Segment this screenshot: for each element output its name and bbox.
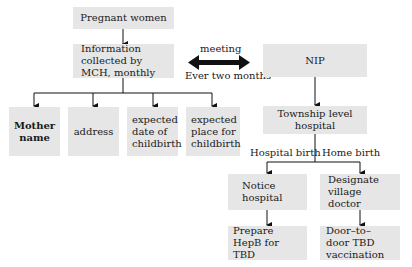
designate-village-doctor-box: Designate village doctor [320, 174, 400, 210]
township-hospital-box: Township level hospital [263, 106, 367, 134]
every-two-months-label: Ever two months [185, 70, 271, 82]
nip-box: NIP [263, 44, 367, 77]
hospital-birth-label: Hospital birth [250, 147, 321, 159]
information-collected-box: Information collected by MCH, monthly [73, 44, 174, 78]
pregnant-women-box: Pregnant women [73, 7, 174, 29]
meeting-label: meeting [200, 43, 241, 55]
home-birth-label: Home birth [322, 147, 380, 159]
field-expected-date: expected date of childbirth [127, 107, 178, 156]
notice-hospital-box: Notice hospital [228, 174, 307, 210]
field-address: address [68, 107, 119, 156]
information-collected-label: Information collected by MCH, monthly [81, 43, 168, 79]
prepare-hepb-box: Prepare HepB for TBD [228, 226, 307, 260]
double-arrow-icon [188, 55, 250, 70]
door-to-door-vaccination-box: Door–to–door TBD vaccination [320, 226, 400, 260]
field-mother-name: Mother name [9, 107, 60, 156]
pregnant-women-label: Pregnant women [80, 12, 166, 24]
field-expected-place: expected place for childbirth [186, 107, 240, 156]
